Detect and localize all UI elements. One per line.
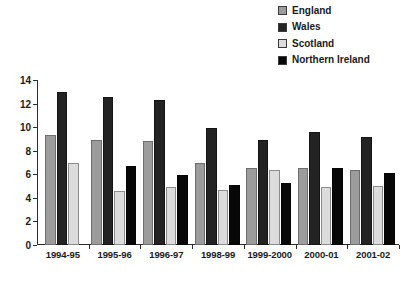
legend-swatch-icon <box>278 39 287 48</box>
bar-wales-1996-97 <box>154 100 165 245</box>
bar-northern-ireland-1998-99 <box>229 185 240 245</box>
bar-northern-ireland-2001-02 <box>384 173 395 245</box>
y-axis-tick-label: 12 <box>20 98 31 109</box>
bar-wales-1998-99 <box>206 128 217 245</box>
bar-england-1996-97 <box>143 141 154 245</box>
bar-england-1994-95 <box>45 135 56 245</box>
x-axis-category-label: 1994-95 <box>46 249 80 260</box>
legend-swatch-icon <box>278 23 287 32</box>
x-axis-tick <box>399 245 400 249</box>
bar-scotland-1999-2000 <box>269 170 280 245</box>
x-axis-category-label: 2001-02 <box>356 249 390 260</box>
legend-swatch-icon <box>278 56 287 65</box>
bar-scotland-1996-97 <box>166 187 177 245</box>
legend-item-label: Northern Ireland <box>292 55 370 65</box>
x-axis-tick <box>140 245 141 249</box>
bar-scotland-1994-95 <box>68 163 79 246</box>
x-axis-category-label: 1995-96 <box>97 249 131 260</box>
x-axis-category-label: 1999-2000 <box>247 249 292 260</box>
bar-scotland-2001-02 <box>373 186 384 245</box>
y-axis-tick <box>33 104 37 105</box>
x-axis-tick <box>296 245 297 249</box>
bar-wales-2001-02 <box>361 137 372 245</box>
bar-wales-2000-01 <box>309 132 320 245</box>
y-axis-tick <box>33 198 37 199</box>
y-axis-tick-label: 14 <box>20 75 31 86</box>
y-axis-tick <box>33 127 37 128</box>
bar-northern-ireland-2000-01 <box>332 168 343 245</box>
x-axis-category-label: 2000-01 <box>304 249 338 260</box>
y-axis-tick-label: 6 <box>25 169 31 180</box>
bar-northern-ireland-1996-97 <box>177 175 188 245</box>
bar-northern-ireland-1995-96 <box>126 166 137 245</box>
legend-swatch-icon <box>278 6 287 15</box>
y-axis-tick-label: 8 <box>25 145 31 156</box>
bar-england-2001-02 <box>350 170 361 245</box>
bar-northern-ireland-1999-2000 <box>281 183 292 245</box>
x-axis-category-label: 1996-97 <box>149 249 183 260</box>
y-axis-tick <box>33 174 37 175</box>
y-axis-tick-label: 4 <box>25 192 31 203</box>
y-axis-tick <box>33 245 37 246</box>
legend-item-northern-ireland: Northern Ireland <box>278 54 370 67</box>
bar-wales-1995-96 <box>103 97 114 246</box>
bar-england-1995-96 <box>91 140 102 245</box>
plot-area: 024681012141994-951995-961996-971998-991… <box>37 80 399 245</box>
legend-item-wales: Wales <box>278 21 370 34</box>
bar-wales-1994-95 <box>57 92 68 245</box>
y-axis-tick-label: 0 <box>25 240 31 251</box>
y-axis-tick <box>33 151 37 152</box>
chart-legend: EnglandWalesScotlandNorthern Ireland <box>278 4 370 67</box>
legend-item-scotland: Scotland <box>278 37 370 50</box>
y-axis-tick <box>33 221 37 222</box>
x-axis-tick <box>244 245 245 249</box>
legend-item-label: England <box>292 6 331 16</box>
y-axis-tick <box>33 80 37 81</box>
legend-item-label: Wales <box>292 22 321 32</box>
bar-chart: EnglandWalesScotlandNorthern Ireland 024… <box>0 0 410 287</box>
x-axis-tick <box>89 245 90 249</box>
y-axis-tick-label: 2 <box>25 216 31 227</box>
bar-scotland-1998-99 <box>218 190 229 245</box>
bar-scotland-2000-01 <box>321 187 332 245</box>
bar-scotland-1995-96 <box>114 191 125 245</box>
bar-england-1999-2000 <box>246 168 257 245</box>
y-axis-line <box>37 80 38 245</box>
bar-england-1998-99 <box>195 163 206 246</box>
legend-item-england: England <box>278 4 370 17</box>
x-axis-category-label: 1998-99 <box>201 249 235 260</box>
x-axis-tick <box>192 245 193 249</box>
bar-wales-1999-2000 <box>258 140 269 245</box>
y-axis-tick-label: 10 <box>20 122 31 133</box>
legend-item-label: Scotland <box>292 39 334 49</box>
bar-england-2000-01 <box>298 168 309 245</box>
x-axis-tick <box>347 245 348 249</box>
